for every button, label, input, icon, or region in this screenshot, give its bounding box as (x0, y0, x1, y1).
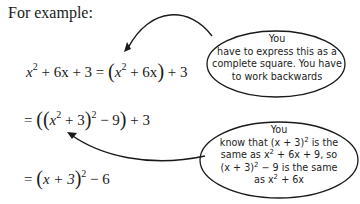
text: (x + 3) (221, 162, 254, 173)
text: − 9 is the same (258, 162, 337, 173)
arrow-1-icon (128, 15, 212, 48)
callout-line: know that (x + 3)2 is the (204, 137, 354, 150)
text: know that (x + 3) (220, 137, 304, 148)
callout-line: same as x2 + 6x + 9, so (204, 149, 354, 162)
callout-line: complete square. You have (210, 58, 344, 71)
callout-line: have to express this as a (210, 46, 344, 59)
text: is the (309, 137, 339, 148)
text: same as x (221, 149, 270, 160)
callout-line: to work backwards (210, 71, 344, 84)
callout-line: as x2 + 6x (204, 174, 354, 187)
callout-line: You (210, 33, 344, 46)
arrow-2-icon (70, 134, 205, 161)
text: + 6x + 9, so (274, 149, 337, 160)
text: as x (254, 174, 274, 185)
text: + 6x (278, 174, 304, 185)
callout-line: (x + 3)2 − 9 is the same (204, 162, 354, 175)
callout-1-text: You have to express this as a complete s… (210, 33, 344, 83)
callout-2-text: You know that (x + 3)2 is the same as x2… (204, 124, 354, 187)
callout-line: You (204, 124, 354, 137)
